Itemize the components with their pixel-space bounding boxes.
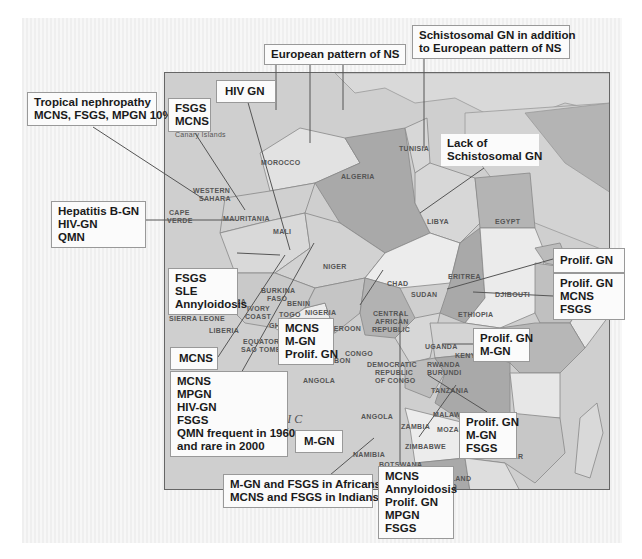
callout-line: M-GN and FSGS in Africans xyxy=(230,478,366,491)
callout-line: FSGS xyxy=(560,303,618,316)
callout-line: Hepatitis B-GN xyxy=(58,205,139,218)
callout-line: to European pattern of NS xyxy=(419,42,563,55)
callout-line: MCNS xyxy=(177,375,281,388)
callout-line: Schistosomal GN xyxy=(447,150,533,163)
callout-line: Prolif. GN xyxy=(466,416,510,429)
callout-line: Prolif. GN xyxy=(560,277,618,290)
callout-line: Prolif. GN xyxy=(480,332,523,345)
callout-hepatitis-b: Hepatitis B-GN HIV-GN QMN xyxy=(51,201,146,248)
callout-line: FSGS xyxy=(175,102,204,115)
callout-line: M-GN xyxy=(466,429,510,442)
callout-zambia-list: MCNS Annyloidosis Prolif. GN MPGN FSGS xyxy=(378,466,454,539)
callout-line: MCNS and FSGS in Indians xyxy=(230,491,366,504)
callout-prolif-mgn: Prolif. GN M-GN xyxy=(473,328,530,362)
callout-line: QMN xyxy=(58,231,139,244)
callout-line: FSGS xyxy=(466,442,510,455)
callout-line: M-GN xyxy=(304,435,334,448)
callout-line: Prolif. GN xyxy=(560,254,618,267)
callout-lack-schistosomal: Lack of Schistosomal GN xyxy=(441,134,539,166)
callout-line: HIV-GN xyxy=(58,218,139,231)
callout-line: SLE xyxy=(175,285,231,298)
callout-line: MPGN xyxy=(177,388,281,401)
callout-fsgs-sle: FSGS SLE Annyloidosis xyxy=(168,268,238,315)
callout-line: Tropical nephropathy xyxy=(34,96,150,109)
callout-line: M-GN xyxy=(480,345,523,358)
callout-prolif-mcns-fsgs: Prolif. GN MCNS FSGS xyxy=(553,273,625,320)
callout-line: and rare in 2000 xyxy=(177,440,281,453)
callout-tropical-nephropathy: Tropical nephropathy MCNS, FSGS, MPGN 10… xyxy=(27,92,157,126)
callout-mcns-mgn-prolif: MCNS M-GN Prolif. GN xyxy=(278,318,334,365)
callout-fsgs-mcns: FSGS MCNS xyxy=(168,98,211,132)
callout-line: MCNS xyxy=(385,470,447,483)
callout-mcns: MCNS xyxy=(170,347,218,370)
callout-mcns-mpgn-hiv: MCNS MPGN HIV-GN FSGS QMN frequent in 19… xyxy=(170,371,288,457)
callout-line: MCNS, FSGS, MPGN 10% xyxy=(34,109,150,122)
callout-schistosomal-gn: Schistosomal GN in addition to European … xyxy=(412,25,570,59)
callout-line: MCNS xyxy=(560,290,618,303)
callout-prolif-mgn-fsgs: Prolif. GN M-GN FSGS xyxy=(459,412,517,459)
callout-line: MCNS xyxy=(175,115,204,128)
callout-line: M-GN xyxy=(285,335,327,348)
callout-mgn: M-GN xyxy=(295,430,343,453)
callout-line: Lack of xyxy=(447,137,533,150)
callout-line: HIV-GN xyxy=(177,401,281,414)
callout-line: MCNS xyxy=(285,322,327,335)
callout-line: Prolif. GN xyxy=(385,496,447,509)
callout-line: Annyloidosis xyxy=(175,298,231,311)
callout-hiv-gn: HIV GN xyxy=(216,80,276,103)
callout-prolif-gn: Prolif. GN xyxy=(553,248,625,273)
callout-line: HIV GN xyxy=(225,85,267,98)
callout-line: FSGS xyxy=(175,272,231,285)
callout-line: FSGS xyxy=(385,522,447,535)
callout-line: Prolif. GN xyxy=(285,348,327,361)
callout-line: Annyloidosis xyxy=(385,483,447,496)
callout-line: QMN frequent in 1960s xyxy=(177,427,281,440)
callout-line: Schistosomal GN in addition xyxy=(419,29,563,42)
callout-line: European pattern of NS xyxy=(271,48,399,61)
callout-line: MPGN xyxy=(385,509,447,522)
callout-european-pattern: European pattern of NS xyxy=(264,44,406,65)
callout-line: MCNS xyxy=(179,352,209,365)
callout-line: FSGS xyxy=(177,414,281,427)
callout-south-africa: M-GN and FSGS in Africans MCNS and FSGS … xyxy=(223,474,373,508)
